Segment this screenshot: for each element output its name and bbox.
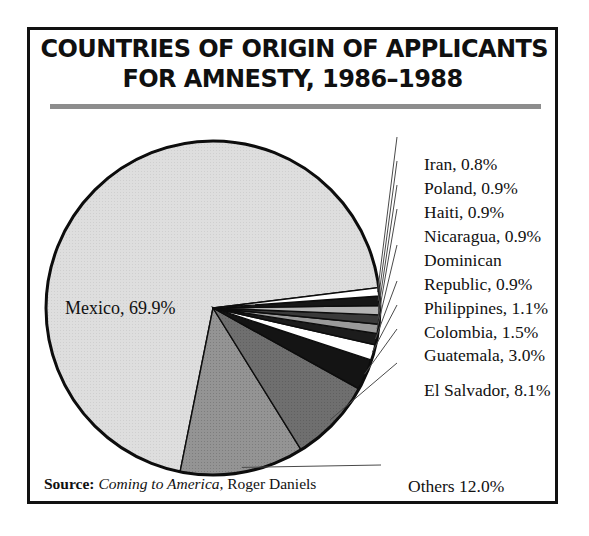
leader-line-poland: [378, 161, 397, 301]
slice-label-mexico: Mexico, 69.9%: [65, 299, 175, 317]
callout-label-poland: Poland, 0.9%: [424, 180, 518, 198]
source-label: Source:: [44, 475, 95, 492]
callout-label-iran: Iran, 0.8%: [424, 156, 497, 174]
leader-line-iran: [378, 137, 397, 292]
callout-label-haiti: Haiti, 0.9%: [424, 204, 504, 222]
callout-label-el-salvador: El Salvador, 8.1%: [424, 382, 551, 400]
callout-label-nicaragua: Nicaragua, 0.9%: [424, 228, 541, 246]
page-bleed-text: [30, 514, 550, 536]
source-credit: Source: Coming to America, Roger Daniels: [44, 475, 316, 493]
source-author: , Roger Daniels: [220, 475, 317, 492]
callout-label-others: Others 12.0%: [408, 478, 504, 496]
leader-line-haiti: [378, 185, 397, 310]
callout-label-colombia: Colombia, 1.5%: [424, 324, 538, 342]
callout-label-dominican: Dominican: [424, 252, 502, 270]
callout-label-guatemala: Guatemala, 3.0%: [424, 347, 545, 365]
chart-frame: COUNTRIES OF ORIGIN OF APPLICANTS FOR AM…: [27, 27, 558, 504]
callout-label-philippines: Philippines, 1.1%: [424, 300, 548, 318]
source-work-title: Coming to America: [98, 475, 219, 492]
callout-label-republic: Republic, 0.9%: [424, 276, 532, 294]
